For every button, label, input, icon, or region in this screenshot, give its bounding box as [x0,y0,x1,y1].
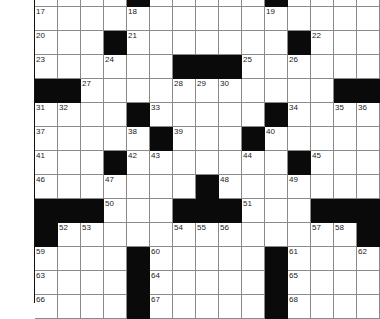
grid-cell[interactable]: 45 [311,151,334,175]
grid-cell[interactable] [219,103,242,127]
grid-cell[interactable] [196,103,219,127]
grid-cell[interactable] [288,0,311,7]
grid-cell[interactable] [35,0,58,7]
grid-cell[interactable] [81,55,104,79]
grid-cell[interactable] [150,31,173,55]
grid-cell[interactable] [288,127,311,151]
grid-cell[interactable]: 47 [104,175,127,199]
grid-cell[interactable] [196,31,219,55]
grid-cell[interactable] [265,55,288,79]
grid-cell[interactable] [357,295,380,319]
grid-cell[interactable] [334,175,357,199]
grid-cell[interactable] [334,247,357,271]
grid-cell[interactable]: 26 [288,55,311,79]
grid-cell[interactable] [127,55,150,79]
grid-cell[interactable]: 55 [196,223,219,247]
grid-cell[interactable]: 38 [127,127,150,151]
grid-cell[interactable] [150,199,173,223]
grid-cell[interactable] [357,31,380,55]
grid-cell[interactable] [81,0,104,7]
grid-cell[interactable]: 43 [150,151,173,175]
grid-cell[interactable] [219,0,242,7]
grid-cell[interactable]: 31 [35,103,58,127]
grid-cell[interactable] [196,0,219,7]
grid-cell[interactable]: 34 [288,103,311,127]
grid-cell[interactable] [196,295,219,319]
grid-cell[interactable]: 20 [35,31,58,55]
grid-cell[interactable] [311,55,334,79]
grid-cell[interactable]: 64 [150,271,173,295]
grid-cell[interactable] [311,0,334,7]
grid-cell[interactable]: 46 [35,175,58,199]
grid-cell[interactable] [357,127,380,151]
grid-cell[interactable] [334,127,357,151]
grid-cell[interactable] [81,175,104,199]
grid-cell[interactable] [58,127,81,151]
grid-cell[interactable] [242,31,265,55]
grid-cell[interactable] [150,79,173,103]
grid-cell[interactable] [242,0,265,7]
grid-cell[interactable] [150,55,173,79]
grid-cell[interactable] [58,7,81,31]
grid-cell[interactable]: 49 [288,175,311,199]
grid-cell[interactable] [173,151,196,175]
grid-cell[interactable] [127,79,150,103]
grid-cell[interactable] [334,55,357,79]
grid-cell[interactable] [288,79,311,103]
grid-cell[interactable] [58,295,81,319]
grid-cell[interactable] [196,247,219,271]
grid-cell[interactable] [334,295,357,319]
grid-cell[interactable]: 54 [173,223,196,247]
grid-cell[interactable]: 37 [35,127,58,151]
grid-cell[interactable]: 33 [150,103,173,127]
grid-cell[interactable] [58,175,81,199]
grid-cell[interactable] [288,199,311,223]
grid-cell[interactable] [81,7,104,31]
grid-cell[interactable] [311,247,334,271]
grid-cell[interactable] [357,175,380,199]
grid-cell[interactable]: 21 [127,31,150,55]
grid-cell[interactable] [196,7,219,31]
grid-cell[interactable] [265,151,288,175]
grid-cell[interactable]: 48 [219,175,242,199]
grid-cell[interactable]: 25 [242,55,265,79]
grid-cell[interactable] [357,151,380,175]
grid-cell[interactable] [242,247,265,271]
grid-cell[interactable] [58,55,81,79]
grid-cell[interactable] [150,175,173,199]
grid-cell[interactable]: 66 [35,295,58,319]
grid-cell[interactable] [334,151,357,175]
grid-cell[interactable]: 40 [265,127,288,151]
grid-cell[interactable] [196,151,219,175]
grid-cell[interactable] [173,247,196,271]
grid-cell[interactable] [265,79,288,103]
grid-cell[interactable] [334,0,357,7]
grid-cell[interactable]: 39 [173,127,196,151]
grid-cell[interactable]: 19 [265,7,288,31]
grid-cell[interactable] [173,271,196,295]
grid-cell[interactable] [81,151,104,175]
grid-cell[interactable] [311,7,334,31]
grid-cell[interactable] [81,271,104,295]
grid-cell[interactable]: 67 [150,295,173,319]
grid-cell[interactable] [311,295,334,319]
grid-cell[interactable] [288,223,311,247]
grid-cell[interactable]: 68 [288,295,311,319]
grid-cell[interactable] [334,271,357,295]
grid-cell[interactable] [173,31,196,55]
grid-cell[interactable] [288,7,311,31]
grid-cell[interactable]: 41 [35,151,58,175]
grid-cell[interactable] [104,127,127,151]
grid-cell[interactable]: 24 [104,55,127,79]
grid-cell[interactable] [242,103,265,127]
grid-cell[interactable] [265,223,288,247]
grid-cell[interactable] [173,103,196,127]
grid-cell[interactable] [265,199,288,223]
grid-cell[interactable]: 65 [288,271,311,295]
grid-cell[interactable]: 57 [311,223,334,247]
grid-cell[interactable] [242,295,265,319]
grid-cell[interactable]: 18 [127,7,150,31]
grid-cell[interactable] [196,271,219,295]
grid-cell[interactable] [357,271,380,295]
grid-cell[interactable] [58,247,81,271]
